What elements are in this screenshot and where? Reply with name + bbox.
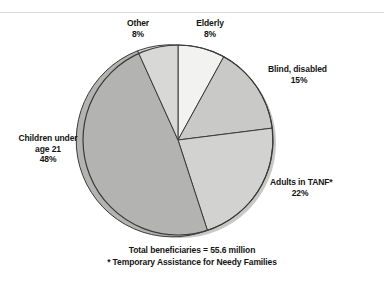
slice-label-adults-in-tanf: Adults in TANF* 22% [270, 177, 364, 198]
slice-label-other-percent: 8% [110, 29, 166, 40]
slice-label-adults-in-tanf-text: Adults in TANF* [270, 177, 364, 188]
chart-area: Other 8% Elderly 8% Blind, disabled 15% … [0, 0, 384, 284]
slice-label-elderly: Elderly 8% [182, 18, 238, 39]
footnote-total-beneficiaries: Total beneficiaries = 55.6 million [0, 245, 384, 257]
slice-label-blind-disabled-text: Blind, disabled [268, 64, 362, 75]
slice-label-blind-disabled-percent: 15% [268, 75, 330, 86]
slice-label-other-text: Other [110, 18, 166, 29]
slice-label-children-under-21-text-line2: age 21 [8, 144, 88, 155]
pie-chart-figure: Other 8% Elderly 8% Blind, disabled 15% … [0, 0, 384, 284]
slice-label-children-under-21-percent: 48% [8, 154, 88, 165]
slice-label-elderly-percent: 8% [182, 29, 238, 40]
slice-label-elderly-text: Elderly [182, 18, 238, 29]
slice-label-blind-disabled: Blind, disabled 15% [268, 64, 362, 85]
slice-label-children-under-21-text-line1: Children under [8, 133, 88, 144]
slice-label-other: Other 8% [110, 18, 166, 39]
slice-label-adults-in-tanf-percent: 22% [270, 188, 330, 199]
footnote-tanf-definition: * Temporary Assistance for Needy Familie… [0, 257, 384, 269]
chart-footnote: Total beneficiaries = 55.6 million * Tem… [0, 245, 384, 268]
slice-label-children-under-21: Children under age 21 48% [8, 133, 88, 165]
